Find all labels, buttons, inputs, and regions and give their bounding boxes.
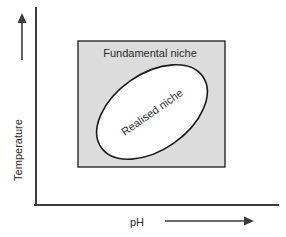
up-arrow-icon xyxy=(18,13,27,60)
fundamental-niche-label: Fundamental niche xyxy=(103,47,197,59)
y-axis-label: Temperature xyxy=(12,119,24,181)
niche-diagram-figure: Fundamental niche Realised niche Tempera… xyxy=(0,0,286,237)
x-axis-label: pH xyxy=(130,216,144,228)
diagram-canvas: Fundamental niche Realised niche Tempera… xyxy=(0,0,286,237)
right-arrow-icon xyxy=(165,217,254,226)
